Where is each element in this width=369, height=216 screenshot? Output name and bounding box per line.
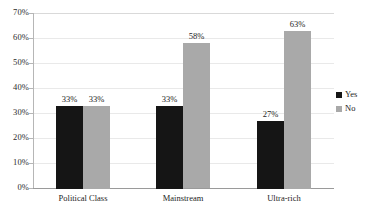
bar — [284, 31, 311, 189]
bar — [257, 121, 284, 189]
y-axis-tick-label: 40% — [0, 83, 29, 92]
x-axis-category-label: Political Class — [33, 193, 133, 203]
x-axis-category-label: Mainstream — [133, 193, 233, 203]
legend-item[interactable]: Yes — [336, 89, 357, 100]
y-axis-tick-label: 50% — [0, 58, 29, 67]
y-axis-line — [33, 13, 34, 189]
y-axis-tick-label: 0% — [0, 183, 29, 192]
legend-label: No — [345, 104, 355, 113]
y-axis-tick-label: 10% — [0, 158, 29, 167]
bar-chart: 70%60%50%40%30%20%10%0% 33%33%33%58%27%6… — [0, 0, 369, 216]
legend-item[interactable]: No — [336, 103, 357, 114]
y-axis-tick-label: 70% — [0, 8, 29, 17]
bar-value-label: 58% — [177, 32, 216, 41]
bar-value-label: 63% — [278, 20, 317, 29]
bar — [83, 106, 110, 189]
bar — [56, 106, 83, 189]
legend-label: Yes — [345, 90, 357, 99]
legend-swatch-icon — [336, 92, 342, 98]
bar-value-label: 33% — [77, 95, 116, 104]
plot-top-border — [33, 13, 334, 14]
x-axis-category-label: Ultra-rich — [234, 193, 334, 203]
y-axis-tick-label: 30% — [0, 108, 29, 117]
legend-swatch-icon — [336, 106, 342, 112]
legend: YesNo — [336, 89, 357, 117]
y-axis-tick-label: 20% — [0, 133, 29, 142]
bar — [156, 106, 183, 189]
y-axis-tick-label: 60% — [0, 33, 29, 42]
bar — [183, 43, 210, 188]
